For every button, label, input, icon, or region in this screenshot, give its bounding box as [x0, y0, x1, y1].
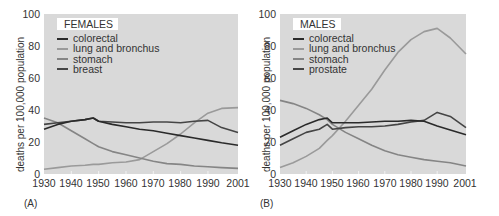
legend-swatch-icon	[293, 68, 304, 70]
legend-swatch-icon	[57, 68, 68, 70]
legend-title: FEMALES	[57, 18, 118, 30]
series-line-stomach	[44, 118, 238, 168]
males-chart-panel: deaths per 100,000 population 100 80 60 …	[250, 0, 499, 216]
legend-swatch-icon	[293, 38, 304, 40]
y-tick-20: 20	[252, 137, 276, 147]
legend-swatch-icon	[57, 58, 68, 60]
x-tick-1960: 1960	[343, 178, 373, 188]
y-tick-80: 80	[16, 41, 40, 51]
y-tick-60: 60	[252, 73, 276, 83]
x-tick-2001: 2001	[223, 178, 253, 188]
y-tick-80: 80	[252, 41, 276, 51]
x-tick-1930: 1930	[29, 178, 59, 188]
legend-item: breast	[57, 64, 159, 74]
x-tick-1980: 1980	[165, 178, 195, 188]
x-tick-1950: 1950	[83, 178, 113, 188]
legend-swatch-icon	[57, 48, 68, 50]
panel-label: (A)	[24, 198, 37, 209]
legend-swatch-icon	[57, 38, 68, 40]
series-line-prostate	[280, 112, 466, 145]
series-line-colorectal	[280, 118, 466, 137]
series-line-lung-and-bronchus	[44, 108, 238, 170]
legend-item: prostate	[293, 64, 395, 74]
x-tick-1960: 1960	[111, 178, 141, 188]
y-tick-100: 100	[16, 9, 40, 19]
x-tick-1940: 1940	[56, 178, 86, 188]
legend-title: MALES	[293, 18, 341, 30]
legend-swatch-icon	[293, 48, 304, 50]
chart-legend: FEMALES colorectal lung and bronchus sto…	[57, 18, 159, 74]
y-tick-40: 40	[252, 105, 276, 115]
series-line-breast	[44, 118, 238, 132]
y-tick-60: 60	[16, 73, 40, 83]
chart-legend: MALES colorectal lung and bronchus stoma…	[293, 18, 395, 74]
y-tick-40: 40	[16, 105, 40, 115]
panel-label: (B)	[260, 198, 273, 209]
x-tick-1970: 1970	[138, 178, 168, 188]
x-tick-2001: 2001	[450, 178, 480, 188]
x-tick-1990: 1990	[193, 178, 223, 188]
y-tick-20: 20	[16, 137, 40, 147]
legend-swatch-icon	[293, 58, 304, 60]
females-chart-panel: deaths per 100,000 population 100 80 60 …	[0, 0, 250, 216]
x-tick-1990: 1990	[422, 178, 452, 188]
y-tick-100: 100	[252, 9, 276, 19]
